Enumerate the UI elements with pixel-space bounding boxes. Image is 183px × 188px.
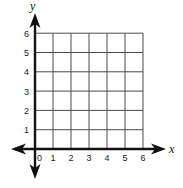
y-tick-labels: 123456 bbox=[24, 29, 29, 136]
y-tick-label: 6 bbox=[24, 29, 29, 39]
y-tick-label: 2 bbox=[24, 106, 29, 116]
coordinate-plane: 0123456 123456 x y bbox=[0, 0, 183, 188]
x-tick-label: 0 bbox=[37, 153, 42, 163]
x-tick-labels: 0123456 bbox=[37, 153, 146, 163]
y-axis-label: y bbox=[29, 0, 36, 13]
y-tick-label: 3 bbox=[24, 87, 29, 97]
grid bbox=[35, 33, 143, 149]
y-tick-label: 4 bbox=[24, 67, 29, 77]
y-tick-label: 5 bbox=[24, 48, 29, 58]
y-tick-label: 1 bbox=[24, 125, 29, 135]
x-tick-label: 5 bbox=[122, 153, 127, 163]
x-axis-label: x bbox=[168, 142, 175, 156]
x-tick-label: 2 bbox=[68, 153, 73, 163]
x-tick-label: 6 bbox=[140, 153, 145, 163]
x-tick-label: 1 bbox=[50, 153, 55, 163]
x-tick-label: 4 bbox=[104, 153, 109, 163]
x-tick-label: 3 bbox=[86, 153, 91, 163]
